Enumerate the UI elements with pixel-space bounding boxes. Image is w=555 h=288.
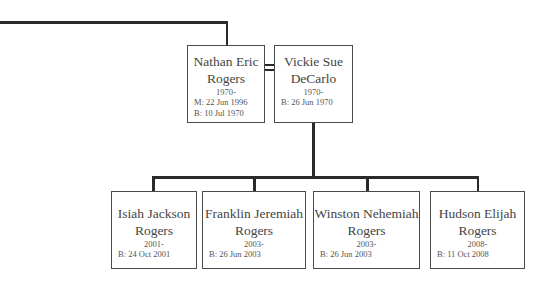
ancestor-connector-vertical [226, 21, 229, 46]
person-surname: Rogers [314, 222, 419, 239]
person-years: 1970- [188, 87, 264, 97]
person-box-vickie[interactable]: Vickie Sue DeCarlo 1970- B: 26 Jun 1970 [274, 45, 353, 123]
birth-date: B: 26 Jun 1970 [275, 97, 352, 108]
person-surname: Rogers [112, 222, 196, 239]
person-years: 2008- [431, 239, 524, 249]
birth-date: B: 24 Oct 2001 [112, 249, 196, 260]
person-box-franklin[interactable]: Franklin Jeremiah Rogers 2003- B: 26 Jun… [202, 191, 306, 269]
person-box-hudson[interactable]: Hudson Elijah Rogers 2008- B: 11 Oct 200… [430, 191, 525, 269]
person-given-names: Winston Nehemiah [314, 205, 419, 222]
person-given-names: Hudson Elijah [431, 205, 524, 222]
person-surname: DeCarlo [275, 70, 352, 87]
person-name: Isiah Jackson Rogers [112, 205, 196, 239]
birth-date: B: 26 Jun 2003 [314, 249, 419, 260]
descendant-connector-vertical [312, 122, 315, 178]
person-name: Vickie Sue DeCarlo [275, 53, 352, 87]
birth-date: B: 10 Jul 1970 [188, 108, 264, 119]
person-surname: Rogers [188, 70, 264, 87]
person-years: 2001- [112, 239, 196, 249]
person-name: Hudson Elijah Rogers [431, 205, 524, 239]
person-box-winston[interactable]: Winston Nehemiah Rogers 2003- B: 26 Jun … [313, 191, 420, 269]
ancestor-connector-horizontal [0, 21, 228, 24]
person-given-names: Vickie Sue [275, 53, 352, 70]
person-surname: Rogers [431, 222, 524, 239]
person-box-isiah[interactable]: Isiah Jackson Rogers 2001- B: 24 Oct 200… [111, 191, 197, 269]
child-connector-winston [366, 176, 369, 192]
birth-date: B: 26 Jun 2003 [203, 249, 305, 260]
children-connector-horizontal [152, 176, 479, 179]
person-name: Franklin Jeremiah Rogers [203, 205, 305, 239]
person-given-names: Nathan Eric [188, 53, 264, 70]
marriage-date: M: 22 Jun 1996 [188, 97, 264, 108]
person-years: 2003- [314, 239, 419, 249]
person-years: 1970- [275, 87, 352, 97]
child-connector-hudson [477, 176, 480, 192]
person-years: 2003- [203, 239, 305, 249]
child-connector-isiah [152, 176, 155, 192]
marriage-line-top [264, 64, 274, 66]
person-surname: Rogers [203, 222, 305, 239]
birth-date: B: 11 Oct 2008 [431, 249, 524, 260]
child-connector-franklin [253, 176, 256, 192]
marriage-line-bottom [264, 69, 274, 71]
person-name: Nathan Eric Rogers [188, 53, 264, 87]
person-given-names: Franklin Jeremiah [203, 205, 305, 222]
person-given-names: Isiah Jackson [112, 205, 196, 222]
person-box-nathan[interactable]: Nathan Eric Rogers 1970- M: 22 Jun 1996 … [187, 45, 265, 123]
person-name: Winston Nehemiah Rogers [314, 205, 419, 239]
